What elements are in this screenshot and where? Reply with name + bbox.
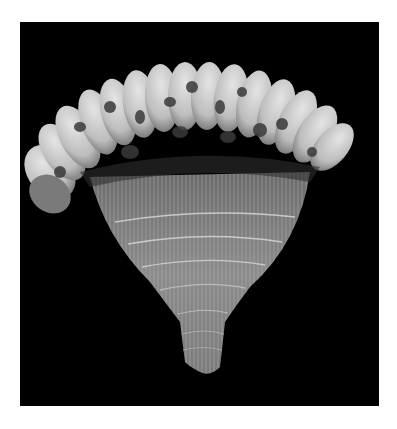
photograph — [20, 22, 379, 406]
feather-fan-illustration — [20, 22, 379, 406]
fiber-bundle — [90, 172, 310, 374]
